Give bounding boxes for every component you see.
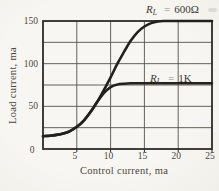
curve-label-600ohm: RL=600Ω (146, 3, 199, 17)
resistance-value: 1K (178, 72, 191, 84)
chart-plot-area (0, 0, 219, 191)
resistance-subscript: L (157, 77, 161, 86)
y-tick-label: 100 (16, 59, 38, 69)
y-axis-title: Load current, ma (7, 26, 20, 146)
curve-label-1k: RL=1K (150, 72, 192, 86)
resistance-symbol: R (150, 72, 157, 84)
x-tick-label: 20 (166, 151, 186, 161)
resistance-symbol: R (146, 3, 153, 15)
origin-tick-label: 0 (26, 145, 38, 155)
curve-1k (43, 83, 212, 136)
y-tick-label: 50 (16, 101, 38, 111)
equals-sign: = (164, 3, 170, 15)
y-tick-label: 150 (16, 16, 38, 26)
x-tick-label: 10 (99, 151, 119, 161)
resistance-subscript: L (153, 8, 157, 17)
x-axis-title: Control current, ma (44, 165, 204, 176)
resistance-value: 600Ω (174, 3, 199, 15)
scanned-figure: Load current, ma Control current, ma 0 5… (0, 0, 219, 191)
scan-artifact (208, 8, 217, 12)
x-tick-label: 5 (65, 151, 85, 161)
equals-sign: = (168, 72, 174, 84)
x-tick-label: 25 (200, 151, 219, 161)
x-tick-label: 15 (132, 151, 152, 161)
